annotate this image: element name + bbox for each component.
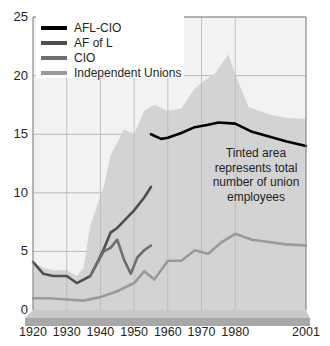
legend-item-afl-cio[interactable]: AFL-CIO (41, 21, 121, 35)
legend-item-label: AF of L (74, 37, 113, 49)
y-tick-label-25: 25 (2, 10, 28, 23)
annotation-line-4: employees (196, 190, 316, 205)
y-tick-label-20: 20 (2, 69, 28, 82)
annotation-line-1: Tinted area (196, 146, 316, 161)
line-swatch-icon (41, 56, 67, 60)
x-tick-label-2001: 2001 (284, 326, 328, 339)
legend-item-independent-unions[interactable]: Independent Unions (41, 66, 181, 80)
line-swatch-icon (41, 71, 67, 75)
y-tick-label-0: 0 (2, 303, 28, 316)
line-swatch-icon (41, 26, 67, 30)
y-tick-label-5: 5 (2, 244, 28, 257)
legend-item-af-of-l[interactable]: AF of L (41, 36, 113, 50)
y-tick-label-15: 15 (2, 127, 28, 140)
y-tick-label-10: 10 (2, 186, 28, 199)
x-tick-label-1980: 1980 (213, 326, 257, 339)
annotation-line-2: represents total (196, 161, 316, 176)
union-membership-chart: 2520151050 19201930194019501960197019802… (0, 0, 330, 346)
axis-base-top (25, 310, 310, 318)
legend-item-label: AFL-CIO (74, 22, 121, 34)
legend-item-label: CIO (74, 52, 95, 64)
legend-item-label: Independent Unions (74, 67, 181, 79)
annotation-line-3: number of union (196, 175, 316, 190)
chart-legend: AFL-CIOAF of LCIOIndependent Unions (36, 16, 184, 78)
tinted-area-annotation: Tinted area represents total number of u… (196, 146, 316, 204)
line-swatch-icon (41, 41, 67, 45)
legend-item-cio[interactable]: CIO (41, 51, 95, 65)
